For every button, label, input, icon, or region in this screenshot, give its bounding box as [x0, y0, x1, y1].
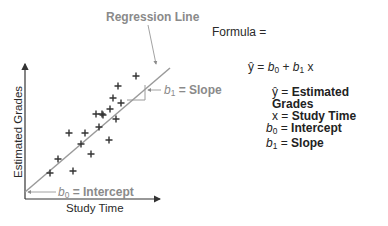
data-point [110, 95, 117, 102]
data-point [133, 73, 140, 80]
equals: = [254, 60, 268, 74]
data-point [118, 100, 125, 107]
data-point [107, 106, 114, 113]
data-point [82, 130, 89, 137]
data-point [99, 111, 106, 118]
legend-subscript: 1 [273, 141, 278, 151]
regression-line-label: Regression Line [106, 11, 199, 23]
data-point [106, 137, 113, 144]
formula-title: Formula = [212, 26, 266, 38]
legend-row: b0 = Intercept [266, 122, 388, 137]
legend-symbol: b [266, 136, 273, 150]
y-axis-label: Estimated Grades [12, 86, 24, 178]
plus: + [279, 60, 293, 74]
data-point [100, 112, 107, 119]
legend-row: ŷ = Estimated Grades [266, 86, 388, 110]
intercept-text: = Intercept [69, 185, 133, 199]
intercept-symbol: b [58, 185, 65, 199]
legend-text: Slope [291, 136, 324, 150]
regression-pointer [148, 25, 156, 64]
x-symbol: x [304, 60, 313, 74]
intercept-label: b0 = Intercept [58, 186, 134, 200]
data-point [88, 151, 95, 158]
data-point [93, 111, 100, 118]
data-point [115, 83, 122, 90]
legend-symbol: b [266, 121, 273, 135]
data-point [47, 170, 54, 177]
formula-legend: ŷ = Estimated Grades x = Study Time b0 =… [266, 86, 388, 152]
legend-text: Estimated Grades [272, 85, 349, 111]
legend-text: Intercept [291, 121, 342, 135]
formula-equation: ŷ = b0 + b1 x [248, 61, 313, 75]
slope-symbol: b [164, 83, 171, 97]
data-point [66, 130, 73, 137]
data-point [70, 168, 77, 175]
slope-text: = Slope [175, 83, 221, 97]
legend-subscript: 0 [273, 126, 278, 136]
x-axis-label: Study Time [66, 203, 124, 215]
slope-label: b1 = Slope [164, 84, 222, 98]
data-point [96, 124, 103, 131]
legend-row: b1 = Slope [266, 137, 388, 152]
